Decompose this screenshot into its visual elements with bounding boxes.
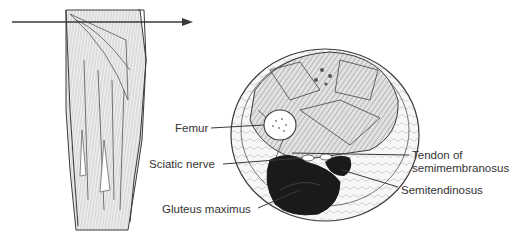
label-semitendinosus: Semitendinosus — [401, 184, 483, 197]
label-tendon-line1: Tendon of — [412, 149, 463, 162]
posterior-thigh-drawing — [66, 10, 146, 230]
label-sciatic-nerve: Sciatic nerve — [149, 158, 215, 171]
thigh-illustration — [0, 0, 521, 240]
label-gluteus-maximus: Gluteus maximus — [162, 203, 251, 216]
label-tendon-line2: semimembranosus — [412, 162, 509, 175]
anatomy-figure: Femur Sciatic nerve Gluteus maximus Tend… — [0, 0, 521, 240]
femur-shape — [264, 110, 296, 140]
thigh-cross-section — [231, 49, 419, 221]
label-femur: Femur — [175, 122, 208, 135]
